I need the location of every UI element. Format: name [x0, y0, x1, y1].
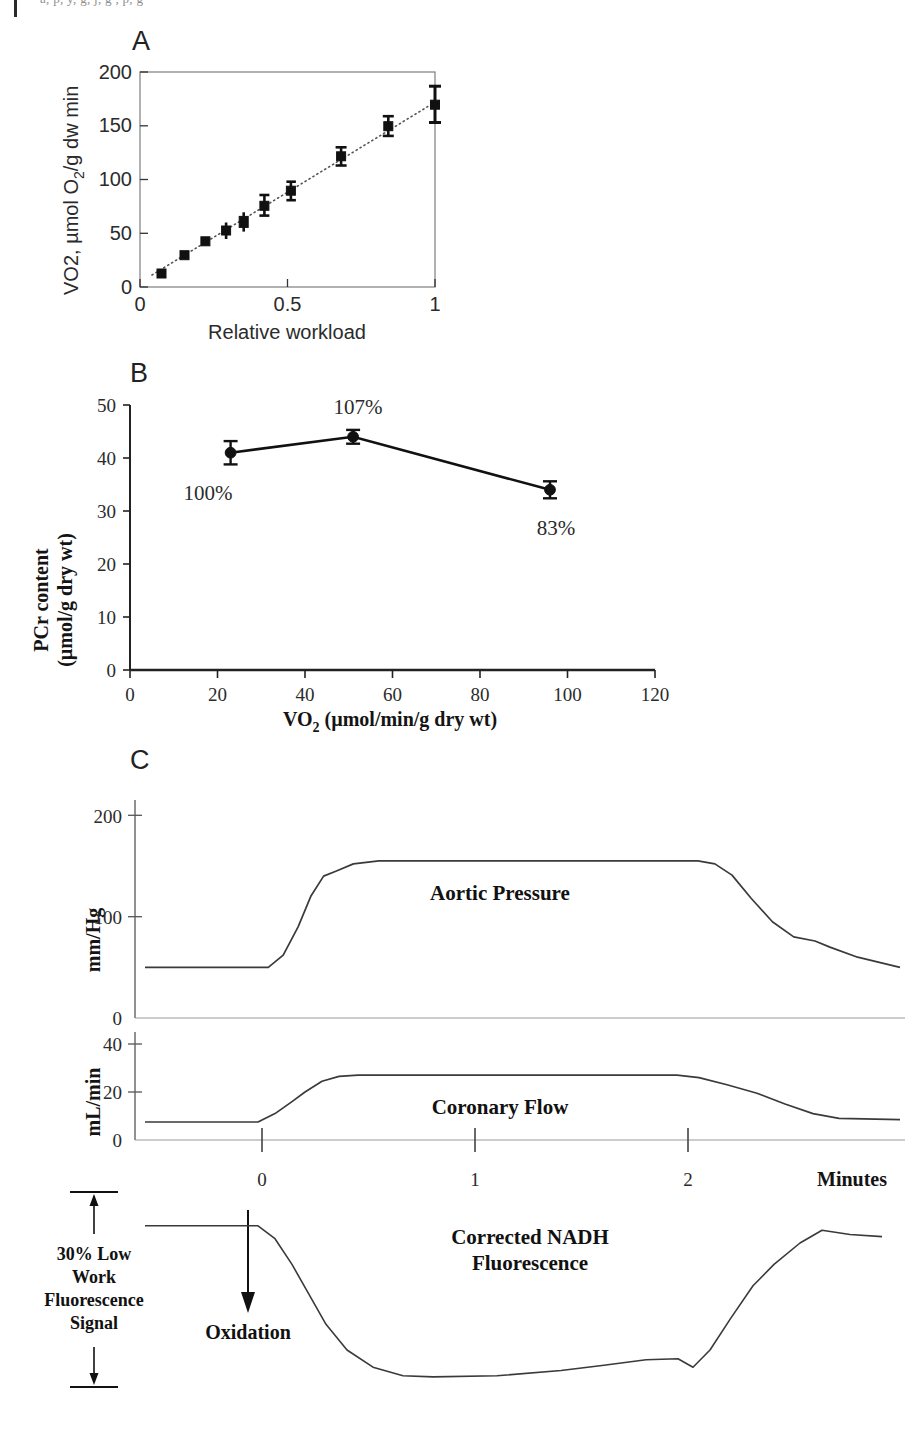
svg-text:20: 20	[208, 684, 227, 705]
panel-a-chart: VO2, µmol O2/g dw min 0 50 100 150 200	[0, 55, 470, 345]
panel-b-letter: B	[130, 358, 148, 389]
svg-text:(µmol/g dry wt): (µmol/g dry wt)	[54, 533, 77, 667]
page-rule	[14, 0, 17, 17]
panel-b-annotation-107: 107%	[334, 395, 383, 419]
panel-b-xlabel: VO2 (µmol/min/g dry wt)	[283, 708, 497, 735]
cropped-header-text: a, p, y, g, j, g , p, g	[0, 0, 910, 18]
panel-c-coronary-flow-label: Coronary Flow	[432, 1095, 570, 1119]
panel-c-letter: C	[130, 745, 150, 776]
svg-text:1: 1	[429, 293, 440, 315]
panel-b-ylabel-line1: PCr content	[30, 548, 52, 652]
svg-text:40: 40	[296, 684, 315, 705]
panel-b-point	[346, 430, 360, 444]
svg-text:Corrected NADH: Corrected NADH	[451, 1225, 609, 1249]
svg-text:Fluorescence: Fluorescence	[472, 1251, 588, 1275]
svg-text:60: 60	[383, 684, 402, 705]
svg-text:50: 50	[97, 395, 116, 416]
svg-text:mL/min: mL/min	[82, 1068, 104, 1137]
panel-b-annotation-100: 100%	[184, 481, 233, 505]
svg-text:30% Low: 30% Low	[57, 1244, 132, 1264]
svg-text:Signal: Signal	[70, 1313, 118, 1333]
panel-c-mid-ylabel: mL/min	[82, 1068, 104, 1137]
svg-text:0: 0	[113, 1130, 123, 1151]
panel-a-point	[239, 212, 248, 231]
nadh-scale-bar-label: 30% Low Work Fluorescence Signal	[44, 1244, 144, 1333]
svg-text:120: 120	[641, 684, 670, 705]
svg-text:20: 20	[97, 554, 116, 575]
panel-a-point	[429, 86, 441, 122]
svg-text:PCr content: PCr content	[30, 548, 52, 652]
svg-text:30: 30	[97, 501, 116, 522]
figure-root: a, p, y, g, j, g , p, g A VO2, µmol O2/g…	[0, 0, 910, 1432]
panel-b-xticks: 0 20 40 60 80 100 120	[125, 670, 669, 705]
panel-b-data-series	[224, 430, 557, 498]
svg-text:0: 0	[134, 293, 145, 315]
panel-a-point	[259, 195, 269, 216]
panel-a-point	[222, 223, 231, 240]
panel-a-point	[180, 251, 189, 260]
panel-b-series-line	[231, 437, 550, 490]
panel-c-nadh-chart: 30% Low Work Fluorescence Signal Oxidati…	[0, 1182, 910, 1432]
svg-text:80: 80	[471, 684, 490, 705]
svg-text:50: 50	[110, 222, 132, 244]
panel-b-annotation-83: 83%	[537, 516, 576, 540]
svg-text:100: 100	[99, 168, 132, 190]
panel-b-ylabel-line2: (µmol/g dry wt)	[54, 533, 77, 667]
cropped-text-ghost: a, p, y, g, j, g , p, g	[40, 0, 143, 7]
svg-text:0.5: 0.5	[274, 293, 302, 315]
panel-a-point	[201, 237, 210, 246]
panel-a-data-series	[157, 86, 441, 278]
panel-a-xticks: 0 0.5 1	[134, 279, 440, 315]
panel-a-point	[157, 269, 166, 278]
svg-text:0: 0	[107, 660, 117, 681]
panel-c-top-chart: mm/Hg 200 100 0 Aortic Pressure	[0, 780, 910, 1030]
svg-text:40: 40	[97, 448, 116, 469]
panel-a-point	[286, 182, 296, 201]
panel-c-aortic-pressure-label: Aortic Pressure	[430, 881, 570, 905]
panel-b-point	[543, 481, 557, 498]
svg-text:150: 150	[99, 114, 132, 136]
svg-text:200: 200	[99, 61, 132, 83]
svg-text:Fluorescence: Fluorescence	[44, 1290, 144, 1310]
panel-a-ylabel: VO2, µmol O2/g dw min	[60, 86, 87, 295]
oxidation-label: Oxidation	[205, 1321, 291, 1343]
svg-text:Work: Work	[72, 1267, 116, 1287]
panel-a-xlabel: Relative workload	[208, 321, 366, 343]
svg-text:0: 0	[121, 276, 132, 298]
svg-text:20: 20	[103, 1082, 122, 1103]
panel-b-chart: PCr content (µmol/g dry wt) 0 10 20 30 4	[0, 390, 720, 730]
panel-a-letter: A	[132, 26, 150, 57]
svg-text:200: 200	[94, 806, 123, 827]
panel-b-yticks: 0 10 20 30 40 50	[97, 395, 130, 681]
panel-c-mid-yticks: 40 20 0	[103, 1034, 142, 1151]
svg-text:40: 40	[103, 1034, 122, 1055]
panel-c-nadh-label: Corrected NADH Fluorescence	[451, 1225, 609, 1275]
panel-b-point	[224, 441, 238, 464]
svg-text:100: 100	[94, 907, 123, 928]
svg-text:VO2, µmol O2/g dw min: VO2, µmol O2/g dw min	[60, 86, 87, 295]
panel-c-aortic-pressure-trace	[145, 861, 900, 967]
svg-text:100: 100	[553, 684, 582, 705]
svg-text:0: 0	[125, 684, 135, 705]
svg-text:10: 10	[97, 607, 116, 628]
